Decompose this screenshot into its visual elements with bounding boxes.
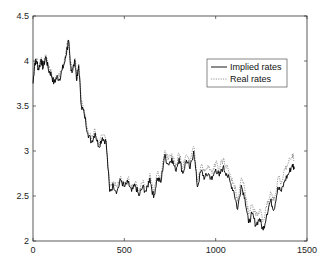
y-tick-label: 3.5 [16,101,29,111]
x-tick-label: 500 [117,245,132,255]
y-tick-label: 2 [24,236,29,246]
y-tick-label: 4.5 [16,11,29,21]
plot-area [33,16,307,241]
x-tick-label: 1500 [297,245,317,255]
line-chart: 050010001500 22.533.544.5 Implied rates … [0,0,330,265]
y-tick-label: 4 [24,56,29,66]
legend: Implied rates Real rates [207,59,287,87]
legend-label-real: Real rates [230,74,272,84]
y-tick-label: 3 [24,146,29,156]
x-tick-label: 0 [30,245,35,255]
legend-label-implied: Implied rates [230,62,282,72]
x-tick-label: 1000 [206,245,226,255]
y-tick-label: 2.5 [16,191,29,201]
